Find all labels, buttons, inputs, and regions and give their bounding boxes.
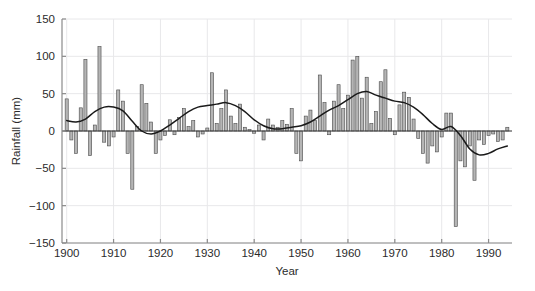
y-tick-label: 150 [36,13,55,25]
bar [393,131,396,135]
rainfall-anomaly-chart: 1900191019201930194019501960197019801990… [0,0,535,291]
bar [93,125,96,131]
x-tick-label: 1970 [382,247,408,259]
bar [70,131,73,140]
bar [262,131,265,140]
bar [182,109,185,131]
bar [464,131,467,167]
bar [407,97,410,131]
bar [126,131,129,153]
x-tick-label: 1960 [335,247,361,259]
bar [398,105,401,131]
bar [295,131,298,153]
bar [192,121,195,131]
bar [314,121,317,131]
bar [112,131,115,137]
bar [431,131,434,146]
bar [196,131,199,137]
y-tick-label: −150 [29,237,55,249]
x-tick-label: 1920 [148,247,174,259]
bar [98,47,101,131]
bar [468,131,471,146]
y-axis-title: Rainfall (mm) [10,97,22,166]
bar [79,108,82,131]
x-axis-title: Year [275,265,298,277]
bar [220,109,223,131]
bar [370,124,373,131]
bar [421,131,424,153]
bar [323,103,326,131]
bar [187,127,190,131]
bar [121,101,124,131]
bar [210,73,213,131]
bar [506,127,509,131]
y-tick-label: 100 [36,50,55,62]
bar [131,131,134,189]
bar [332,101,335,131]
bar [267,119,270,131]
x-tick-label: 1990 [476,247,502,259]
y-tick-label: 50 [42,88,55,100]
bar [243,127,246,131]
bar [89,131,92,156]
y-tick-label: −50 [35,162,55,174]
bar [501,131,504,140]
x-tick-label: 1950 [288,247,314,259]
bar [384,70,387,131]
bar [215,124,218,131]
bar [426,131,429,163]
bar [173,131,176,135]
bar [440,131,443,137]
bar [309,110,312,131]
bar [145,103,148,131]
bar [450,113,453,131]
bar [318,75,321,131]
bar [107,131,110,146]
bar [403,92,406,131]
bar [164,131,167,135]
bar [65,99,68,131]
x-tick-label: 1930 [195,247,221,259]
bar [365,77,368,131]
bar [412,119,415,131]
chart-figure: 1900191019201930194019501960197019801990… [0,0,535,291]
x-tick-label: 1980 [429,247,455,259]
y-tick-label: −100 [29,200,55,212]
bar [117,90,120,131]
bar [478,131,481,140]
bar [154,131,157,153]
bar [257,125,260,131]
bar [337,85,340,131]
bar [75,131,78,153]
bar [375,112,378,131]
y-tick-label: 0 [49,125,55,137]
bar [379,82,382,131]
x-tick-label: 1910 [101,247,127,259]
bar [482,131,485,144]
bar [225,90,228,131]
bar [103,131,106,142]
bar [487,131,490,135]
bar [496,131,499,141]
bar [435,131,438,152]
bar [454,131,457,227]
bar [473,131,476,180]
bar [328,131,331,135]
bar [229,116,232,131]
bar [417,131,420,138]
bar [140,85,143,131]
bar [234,124,237,131]
x-tick-label: 1900 [54,247,80,259]
bar [300,131,303,161]
bar [389,118,392,131]
bar [150,122,153,131]
bar [360,98,363,131]
bar [342,109,345,131]
bar [159,131,162,140]
x-tick-label: 1940 [241,247,267,259]
